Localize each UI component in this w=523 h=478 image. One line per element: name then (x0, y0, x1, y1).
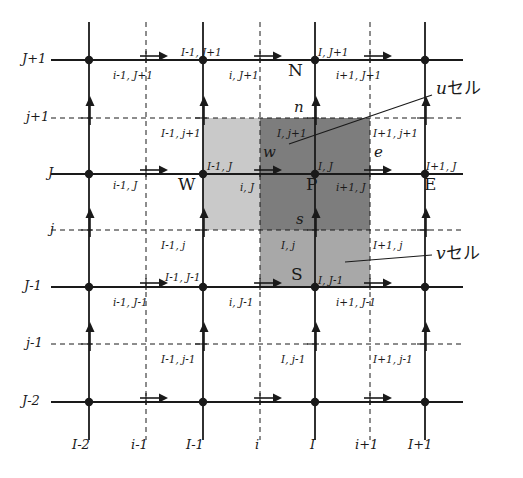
grid-node-dot (85, 283, 93, 291)
grid-graphics (0, 0, 523, 478)
y-axis-label: j (50, 222, 54, 235)
y-axis-label: j-1 (26, 336, 43, 349)
index-label: I+1, j (373, 240, 403, 251)
index-label: i+1, J-1 (336, 297, 376, 308)
grid-node-dot (421, 283, 429, 291)
x-axis-label: I-1 (186, 438, 204, 451)
grid-node-dot (421, 56, 429, 64)
v-velocity-arrow (81, 322, 95, 351)
node-label-P: P (306, 176, 317, 193)
u-velocity-arrow (140, 278, 168, 290)
node-label-N: N (288, 62, 303, 79)
node-label-W: W (178, 176, 195, 193)
y-axis-label: J-2 (22, 394, 40, 407)
u-cell-suffix: セル (447, 78, 481, 98)
v-cell-callout: vセル (436, 245, 480, 262)
grid-node-dot (199, 283, 207, 291)
index-label: I+1, J (426, 161, 457, 172)
y-axis-label: j+1 (26, 110, 49, 123)
grid-node-dot (85, 398, 93, 406)
v-cell-symbol: v (436, 243, 446, 263)
u-velocity-arrow (364, 51, 392, 63)
index-label: I, j+1 (277, 128, 307, 139)
index-label: I, j-1 (281, 354, 305, 365)
index-label: i, J-1 (229, 297, 253, 308)
u-velocity-arrow (140, 393, 168, 405)
node-label-S: S (291, 266, 303, 283)
index-label: i+1, J+1 (336, 70, 381, 81)
index-label: i, J (240, 182, 254, 193)
u-velocity-arrow (254, 393, 282, 405)
u-velocity-arrow (254, 51, 282, 63)
v-velocity-arrow (195, 322, 209, 351)
y-axis-label: J (48, 166, 53, 179)
index-label: i+1, J (336, 182, 366, 193)
x-axis-label: I (310, 438, 315, 451)
index-label: I-1, j+1 (161, 128, 201, 139)
figure-canvas: J+1 j+1 J j J-1 j-1 J-2 I-2 i-1 I-1 i I … (0, 0, 523, 478)
index-label: I+1, j-1 (373, 354, 413, 365)
index-label: I, J+1 (318, 47, 349, 58)
node-label-E: E (424, 176, 436, 193)
x-axis-label: i-1 (131, 438, 148, 451)
u-velocity-arrow (140, 165, 168, 177)
x-axis-label: i+1 (355, 438, 378, 451)
grid-node-dot (421, 398, 429, 406)
v-velocity-arrow (417, 208, 431, 237)
face-label-n: n (294, 100, 304, 115)
v-velocity-arrow (81, 96, 95, 125)
grid-node-dot (85, 170, 93, 178)
index-label: i-1, J+1 (113, 70, 153, 81)
grid-node-dot (199, 170, 207, 178)
y-axis-label: J-1 (24, 279, 42, 292)
x-axis-label: I+1 (408, 438, 432, 451)
index-label: I+1, j+1 (373, 128, 418, 139)
index-label: i-1, J (113, 180, 137, 191)
index-label: I-1, j-1 (161, 354, 196, 365)
grid-node-dot (311, 398, 319, 406)
index-label: i-1, J-1 (113, 297, 148, 308)
face-label-e: e (374, 145, 383, 160)
v-cell-suffix: セル (446, 243, 480, 263)
index-label: I-1, j (161, 240, 185, 251)
face-label-w: w (263, 145, 276, 160)
u-velocity-arrow (140, 51, 168, 63)
face-label-s: s (296, 212, 304, 227)
grid-node-dot (199, 398, 207, 406)
u-velocity-arrow (364, 393, 392, 405)
y-axis-label: J+1 (22, 52, 46, 65)
v-velocity-arrow (81, 208, 95, 237)
index-label: I-1, J+1 (181, 47, 222, 58)
index-label: i, J+1 (229, 70, 259, 81)
x-axis-label: i (255, 438, 259, 451)
grid-node-dot (85, 56, 93, 64)
index-label: I-1, J (207, 161, 232, 172)
index-label: I-1, J-1 (165, 272, 201, 283)
index-label: I, J-1 (318, 275, 343, 286)
index-label: I, J (318, 161, 333, 172)
v-velocity-arrow (307, 322, 321, 351)
index-label: I, j (281, 240, 295, 251)
v-velocity-arrow (417, 96, 431, 125)
u-cell-callout: uセル (436, 80, 481, 97)
v-velocity-arrow (417, 322, 431, 351)
u-cell-symbol: u (436, 78, 447, 98)
x-axis-label: I-2 (72, 438, 90, 451)
